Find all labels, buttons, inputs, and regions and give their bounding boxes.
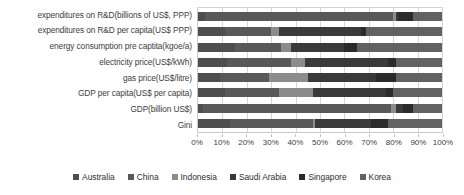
bar-segment[interactable] bbox=[198, 12, 205, 21]
bar-row bbox=[198, 116, 442, 131]
x-axis-tick bbox=[418, 134, 419, 137]
bar-segment[interactable] bbox=[376, 73, 396, 82]
bar-row bbox=[198, 85, 442, 100]
x-axis-tick-label: 10% bbox=[214, 138, 230, 147]
bar-row bbox=[198, 101, 442, 116]
bar-segment[interactable] bbox=[413, 12, 442, 21]
bar-segment[interactable] bbox=[203, 104, 391, 113]
bar-segment[interactable] bbox=[205, 12, 393, 21]
stacked-bar[interactable] bbox=[198, 119, 442, 128]
category-label: gas price(US$/litre) bbox=[0, 70, 196, 86]
bar-segment[interactable] bbox=[344, 43, 356, 52]
x-axis-tick-label: 100% bbox=[433, 138, 453, 147]
bar-segment[interactable] bbox=[227, 58, 290, 67]
legend-swatch-icon bbox=[360, 174, 366, 180]
bar-segment[interactable] bbox=[371, 119, 388, 128]
legend-swatch-icon bbox=[230, 174, 236, 180]
x-axis-tick-label: 90% bbox=[410, 138, 426, 147]
bar-series-container bbox=[198, 8, 442, 132]
bar-segment[interactable] bbox=[281, 43, 291, 52]
x-axis-tick-label: 80% bbox=[386, 138, 402, 147]
legend-item-china[interactable]: China bbox=[128, 172, 159, 182]
x-axis-tick bbox=[369, 134, 370, 137]
stacked-bar-chart: expenditures on R&D(billions of US$, PPP… bbox=[0, 0, 464, 195]
category-label: GDP(billion US$) bbox=[0, 102, 196, 118]
bar-segment[interactable] bbox=[313, 88, 386, 97]
category-label: energy consumption pre captita(kgoe/a) bbox=[0, 39, 196, 55]
bar-segment[interactable] bbox=[220, 73, 269, 82]
bar-segment[interactable] bbox=[198, 73, 220, 82]
category-axis-labels: expenditures on R&D(billions of US$, PPP… bbox=[0, 7, 196, 133]
stacked-bar[interactable] bbox=[198, 58, 442, 67]
bar-segment[interactable] bbox=[386, 88, 393, 97]
bar-segment[interactable] bbox=[269, 73, 308, 82]
category-label: GDP per capita(US$ per capita) bbox=[0, 86, 196, 102]
bar-segment[interactable] bbox=[291, 58, 306, 67]
x-axis-tick bbox=[222, 134, 223, 137]
bar-segment[interactable] bbox=[388, 119, 442, 128]
bar-segment[interactable] bbox=[403, 104, 413, 113]
bar-segment[interactable] bbox=[291, 43, 345, 52]
legend-swatch-icon bbox=[128, 174, 134, 180]
bar-segment[interactable] bbox=[396, 104, 403, 113]
bar-row bbox=[198, 40, 442, 55]
bar-segment[interactable] bbox=[357, 43, 442, 52]
x-axis-tick bbox=[320, 134, 321, 137]
bar-segment[interactable] bbox=[413, 104, 442, 113]
legend-item-singapore[interactable]: Singapore bbox=[299, 172, 346, 182]
bar-segment[interactable] bbox=[396, 73, 442, 82]
bar-segment[interactable] bbox=[305, 58, 388, 67]
x-axis-tick-label: 50% bbox=[312, 138, 328, 147]
bar-row bbox=[198, 24, 442, 39]
plot-area bbox=[197, 7, 443, 133]
legend-item-indonesia[interactable]: Indonesia bbox=[172, 172, 217, 182]
bar-segment[interactable] bbox=[366, 27, 442, 36]
legend-item-korea[interactable]: Korea bbox=[360, 172, 391, 182]
legend: AustraliaChinaIndonesiaSaudi ArabiaSinga… bbox=[0, 170, 464, 184]
bar-segment[interactable] bbox=[230, 119, 313, 128]
category-label: electricity price(US$/kWh) bbox=[0, 54, 196, 70]
bar-segment[interactable] bbox=[279, 88, 313, 97]
bar-segment[interactable] bbox=[315, 119, 371, 128]
x-axis-tick bbox=[345, 134, 346, 137]
stacked-bar[interactable] bbox=[198, 43, 442, 52]
legend-label: Singapore bbox=[308, 172, 346, 182]
bar-segment[interactable] bbox=[225, 88, 279, 97]
bar-segment[interactable] bbox=[198, 119, 230, 128]
x-axis-tick-label: 30% bbox=[263, 138, 279, 147]
bar-segment[interactable] bbox=[396, 58, 442, 67]
bar-segment[interactable] bbox=[271, 27, 278, 36]
bar-segment[interactable] bbox=[225, 27, 271, 36]
stacked-bar[interactable] bbox=[198, 104, 442, 113]
stacked-bar[interactable] bbox=[198, 12, 442, 21]
bar-segment[interactable] bbox=[398, 12, 413, 21]
legend-swatch-icon bbox=[172, 174, 178, 180]
bar-segment[interactable] bbox=[388, 58, 395, 67]
bar-segment[interactable] bbox=[279, 27, 362, 36]
legend-label: China bbox=[137, 172, 159, 182]
x-axis-tick bbox=[295, 134, 296, 137]
legend-label: Korea bbox=[369, 172, 391, 182]
bar-row bbox=[198, 9, 442, 24]
x-axis-tick-label: 70% bbox=[361, 138, 377, 147]
stacked-bar[interactable] bbox=[198, 73, 442, 82]
x-axis-tick bbox=[271, 134, 272, 137]
legend-label: Australia bbox=[82, 172, 115, 182]
legend-item-australia[interactable]: Australia bbox=[73, 172, 115, 182]
legend-item-saudi-arabia[interactable]: Saudi Arabia bbox=[230, 172, 287, 182]
bar-segment[interactable] bbox=[198, 43, 235, 52]
bar-segment[interactable] bbox=[235, 43, 281, 52]
bar-segment[interactable] bbox=[198, 27, 225, 36]
x-axis-tick-label: 20% bbox=[238, 138, 254, 147]
bar-segment[interactable] bbox=[198, 88, 225, 97]
bar-segment[interactable] bbox=[393, 88, 442, 97]
stacked-bar[interactable] bbox=[198, 88, 442, 97]
bar-segment[interactable] bbox=[308, 73, 376, 82]
x-axis-tick bbox=[394, 134, 395, 137]
bar-row bbox=[198, 70, 442, 85]
x-axis-tick bbox=[443, 134, 444, 137]
category-label: Gini bbox=[0, 117, 196, 133]
bar-segment[interactable] bbox=[198, 58, 227, 67]
category-label: expenditures on R&D(billions of US$, PPP… bbox=[0, 7, 196, 23]
stacked-bar[interactable] bbox=[198, 27, 442, 36]
